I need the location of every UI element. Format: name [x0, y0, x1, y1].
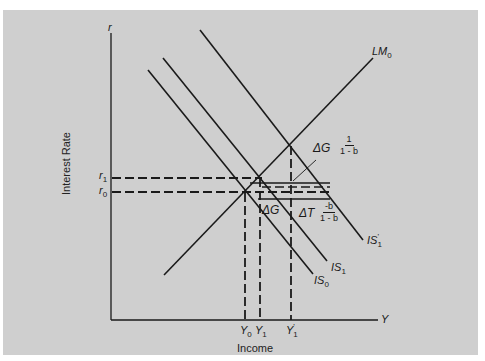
- is0-label: IS0: [314, 275, 329, 289]
- x-axis-symbol: Y: [381, 314, 388, 325]
- delta-g-multiplier-label: ΔG: [313, 142, 330, 154]
- y-axis-symbol: r: [108, 22, 112, 33]
- is0-curve: [148, 70, 313, 274]
- r1-label: r1: [99, 170, 107, 184]
- delta-g-multiplier-fraction: 1 1 - b: [340, 135, 358, 156]
- is1-prime-label: IS1': [367, 235, 382, 249]
- y-axis-label: Interest Rate: [60, 132, 72, 195]
- delta-t-multiplier-fraction: -b 1 - b: [320, 202, 338, 223]
- r0-label: r0: [99, 185, 107, 199]
- x-axis-label: Income: [237, 343, 273, 354]
- lm0-label: LM0: [372, 46, 392, 60]
- delta-t-multiplier-label: ΔT: [299, 207, 314, 219]
- y1-label: Y1: [255, 325, 267, 339]
- y1-prime-label: Y1': [286, 325, 298, 339]
- is-lm-diagram: [0, 0, 485, 361]
- lm0-curve: [164, 58, 373, 275]
- y0-label: Y0: [240, 325, 252, 339]
- delta-g-pointer: [293, 160, 316, 181]
- delta-g-label: ΔG: [262, 204, 279, 216]
- is1-label: IS1: [331, 262, 346, 276]
